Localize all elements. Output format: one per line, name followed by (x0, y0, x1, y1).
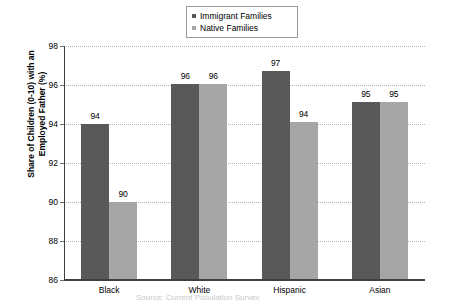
caption-cutoff: Source: Current Population Survey (136, 293, 348, 300)
bar-value-asian-immigrant: 95 (352, 90, 380, 99)
plot-area (64, 46, 425, 280)
bar-black-immigrant (81, 124, 109, 280)
bar-value-hispanic-immigrant: 97 (262, 59, 290, 68)
legend-swatch-native-families (192, 26, 196, 30)
x-axis-label-asian: Asian (335, 286, 425, 295)
x-axis-line (64, 279, 425, 281)
bar-value-asian-native: 95 (380, 90, 408, 99)
gridline-96 (64, 85, 425, 86)
bar-value-hispanic-native: 94 (290, 110, 318, 119)
bar-white-native (199, 84, 227, 280)
y-tick-label-96: 96 (30, 81, 58, 90)
legend-item-immigrant-families: Immigrant Families (191, 10, 293, 21)
legend-label-native-families: Native Families (200, 23, 258, 33)
chart-legend: Immigrant Families Native Families (186, 6, 298, 38)
legend-swatch-immigrant-families (192, 14, 196, 18)
bar-value-white-native: 96 (199, 72, 227, 81)
bar-asian-native (380, 102, 408, 280)
legend-item-native-families: Native Families (191, 22, 293, 33)
y-tick-label-94: 94 (30, 120, 58, 129)
legend-label-immigrant-families: Immigrant Families (200, 11, 272, 21)
bar-hispanic-immigrant (262, 71, 290, 280)
bar-value-black-native: 90 (109, 190, 137, 199)
y-tick-label-92: 92 (30, 159, 58, 168)
bar-white-immigrant (171, 84, 199, 280)
gridline-98 (64, 46, 425, 47)
y-axis-title-line-2: Employed Father (%) (37, 0, 48, 229)
y-tick-label-90: 90 (30, 198, 58, 207)
y-axis-line (64, 46, 65, 280)
bar-chart: Immigrant Families Native Families Share… (0, 0, 456, 300)
y-tick-label-98: 98 (30, 42, 58, 51)
y-tick-label-88: 88 (30, 237, 58, 246)
y-tick-label-86: 86 (30, 276, 58, 285)
y-axis-title: Share of Children (0-10) with an Employe… (26, 0, 54, 229)
y-axis-title-line-1: Share of Children (0-10) with an (26, 0, 37, 229)
bar-black-native (109, 202, 137, 280)
bar-value-white-immigrant: 96 (171, 72, 199, 81)
bar-hispanic-native (290, 122, 318, 280)
bar-asian-immigrant (352, 102, 380, 280)
bar-value-black-immigrant: 94 (81, 112, 109, 121)
